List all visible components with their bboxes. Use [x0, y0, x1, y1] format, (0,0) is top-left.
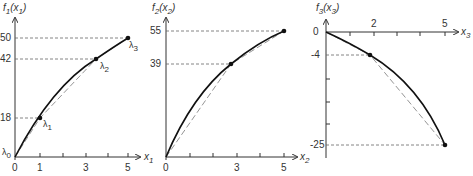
curve: [326, 32, 445, 145]
chart2-xtick-5: 5: [281, 163, 287, 173]
chart3-ylabel: f3(x3): [316, 3, 339, 16]
chart1-xtick-1: 1: [37, 163, 43, 173]
chart2-xlabel: x2: [300, 152, 309, 165]
approx-line: [166, 31, 284, 157]
chart1-xtick-0: 0: [12, 163, 18, 173]
chart3-ytick-0: 0: [313, 27, 319, 37]
chart3-xlabel: x3: [461, 27, 470, 40]
chart1-ytick-18: 18: [0, 113, 11, 123]
chart1-ytick-50: 50: [0, 33, 11, 43]
x-ticks: [350, 32, 445, 36]
curve: [166, 31, 284, 157]
curve: [15, 38, 128, 157]
lambda1-label: λ1: [43, 120, 52, 132]
chart2-ylabel: f2(x2): [152, 3, 175, 16]
chart3-ytick-minus4: -4: [311, 50, 320, 60]
lambda3-label: λ3: [129, 41, 138, 53]
lambda0-label: λ0: [2, 148, 11, 160]
breakpoints: [38, 36, 131, 121]
chart-2: [166, 18, 297, 160]
lambda2-label: λ2: [100, 62, 109, 74]
chart1-ylabel: f1(x1): [3, 3, 26, 16]
chart-1: [15, 18, 140, 160]
chart2-xtick-0: 0: [163, 163, 169, 173]
chart2-ytick-55: 55: [150, 26, 161, 36]
approx-line: [326, 32, 445, 145]
x-ticks: [190, 153, 284, 157]
approx-line: [15, 38, 128, 157]
chart3-xtick-2: 2: [371, 19, 377, 29]
chart2-xtick-3: 3: [234, 163, 240, 173]
chart1-xtick-3: 3: [83, 163, 89, 173]
chart1-xtick-5: 5: [125, 163, 131, 173]
chart1-ytick-42: 42: [0, 54, 11, 64]
chart3-ytick-minus25: -25: [310, 140, 324, 150]
guide-lines: [326, 55, 445, 145]
x-ticks: [40, 153, 128, 157]
y-ticks: [326, 79, 330, 124]
chart1-xlabel: x1: [144, 152, 153, 165]
chart3-xtick-5: 5: [442, 19, 448, 29]
chart2-ytick-39: 39: [150, 59, 161, 69]
guide-lines: [166, 31, 284, 64]
chart-3: [326, 20, 458, 158]
charts-canvas: [0, 0, 473, 176]
